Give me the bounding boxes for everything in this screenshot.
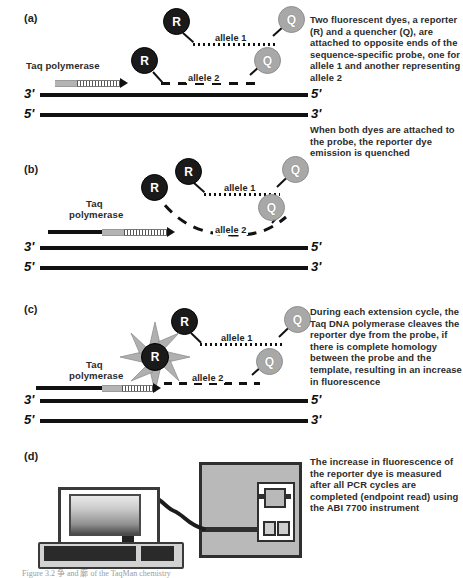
figure-taqman-chemistry: (a) allele 1 R Q allele 2 R Q Taq polyme… [0, 0, 463, 578]
taq-polymerase-label-a: Taq polymerase [26, 60, 100, 71]
primer-extended-c [36, 386, 102, 390]
probe-allele1-leader-r-a [182, 32, 194, 43]
taq-polymerase-label-c-line2: polymerase [69, 370, 123, 381]
laptop-keyboard-main [44, 546, 136, 561]
note-panel-d: The increase in fluorescence of the repo… [310, 456, 462, 514]
polymerase-block-b [102, 229, 124, 236]
instrument-indicator-right [277, 521, 290, 536]
taq-polymerase-label-b-line1: Taq [86, 198, 103, 209]
quencher-dye-allele2-a: Q [254, 47, 281, 74]
panel-label-a: (a) [24, 12, 37, 24]
reporter-dye-allele1-b: R [175, 158, 202, 185]
taq-polymerase-label-b-line2: polymerase [69, 209, 123, 220]
allele2-label-a: allele 2 [186, 73, 221, 83]
panel-label-b: (b) [24, 163, 38, 175]
strand-bottom-right-prime-a: 3' [311, 106, 321, 121]
strand-bottom-right-prime-c: 3' [311, 412, 321, 427]
reporter-dye-allele2-a: R [131, 47, 158, 74]
reporter-dye-allele1-a: R [163, 8, 190, 35]
probe-allele1-line-a [193, 43, 277, 46]
strand-top-left-prime-c: 3' [24, 392, 34, 407]
quencher-letter: Q [263, 54, 272, 68]
strand-bottom-left-prime-a: 5' [24, 106, 34, 121]
quencher-letter: Q [267, 201, 276, 215]
extension-arrowhead-a [120, 78, 128, 88]
allele2-label-b: allele 2 [213, 225, 248, 235]
reporter-letter: R [151, 350, 160, 364]
reporter-dye-cleaved-c: R [141, 343, 169, 371]
probe-allele2-leader-r-a [152, 71, 163, 83]
dna-strand-bottom-a [40, 113, 308, 117]
quencher-letter: Q [293, 313, 302, 327]
dna-strand-top-a [40, 93, 308, 97]
reporter-dye-allele2-b: R [141, 174, 168, 201]
laptop-keyboard-numpad [141, 546, 174, 561]
instrument-sample-block [264, 488, 286, 508]
instrument-side-bar [199, 527, 257, 532]
allele1-label-c: allele 1 [219, 333, 254, 343]
laptop-screen [69, 494, 141, 536]
reporter-letter: R [150, 181, 159, 195]
panel-label-c: (c) [24, 303, 37, 315]
strand-top-left-prime-a: 3' [24, 86, 34, 101]
quencher-dye-allele1-a: Q [278, 6, 305, 33]
reporter-letter: R [172, 15, 181, 29]
reporter-letter: R [140, 54, 149, 68]
strand-bottom-right-prime-b: 3' [311, 259, 321, 274]
note-panel-a-secondary: When both dyes are attached to the probe… [310, 124, 462, 159]
allele1-label-a: allele 1 [213, 33, 248, 43]
strand-top-right-prime-c: 5' [311, 392, 321, 407]
reporter-letter: R [184, 165, 193, 179]
dna-strand-bottom-b [40, 266, 308, 270]
extension-arrowhead-c [153, 383, 161, 393]
taq-polymerase-label-c-line1: Taq [86, 359, 103, 370]
figure-caption: Figure 3.2 争 and 廓 of the TaqMan chemist… [22, 569, 442, 578]
quencher-dye-allele2-b: Q [258, 194, 285, 221]
dna-strand-top-b [40, 246, 308, 250]
polymerase-block-c [102, 385, 122, 392]
polymerase-block-a [55, 80, 77, 87]
strand-bottom-left-prime-b: 5' [24, 259, 34, 274]
extension-arrowhead-b [167, 227, 175, 237]
strand-top-left-prime-b: 3' [24, 239, 34, 254]
strand-top-right-prime-a: 5' [311, 86, 321, 101]
note-panel-c: During each extension cycle, the Taq DNA… [310, 306, 462, 387]
allele2-label-c: allele 2 [190, 373, 225, 383]
dna-strand-bottom-c [40, 419, 308, 423]
note-panel-a: Two fluorescent dyes, a reporter (R) and… [310, 14, 462, 84]
dna-strand-top-c [40, 399, 308, 403]
probe-allele1-leader-r-c [190, 332, 201, 343]
quencher-letter: Q [291, 163, 300, 177]
extension-track-a [77, 80, 121, 87]
quencher-letter: Q [265, 355, 274, 369]
quencher-letter: Q [287, 13, 296, 27]
extension-track-b [124, 229, 168, 236]
quencher-dye-allele1-b: Q [282, 156, 309, 183]
strand-top-right-prime-b: 5' [311, 239, 321, 254]
extension-track-c [122, 385, 154, 392]
instrument-indicator-left [263, 521, 276, 536]
quencher-dye-allele1-c: Q [284, 306, 311, 333]
probe-allele1-line-c [200, 343, 282, 346]
quencher-dye-allele2-c: Q [256, 348, 283, 375]
primer-extended-b [48, 230, 102, 234]
strand-bottom-left-prime-c: 5' [24, 412, 34, 427]
panel-label-d: (d) [24, 450, 38, 462]
